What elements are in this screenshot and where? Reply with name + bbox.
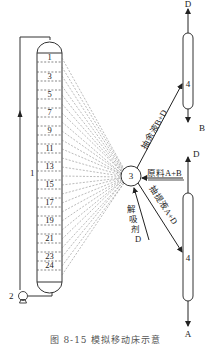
raffinate-label: 抽余液B+D	[139, 108, 169, 151]
svg-text:17: 17	[45, 197, 54, 207]
svg-text:7: 7	[47, 107, 51, 117]
svg-text:19: 19	[45, 215, 54, 225]
column-label: 1	[30, 168, 35, 178]
lower-top-product: D	[193, 149, 200, 159]
svg-text:解: 解	[127, 204, 136, 214]
pump-icon	[19, 292, 28, 304]
valve-connections	[62, 58, 124, 275]
upper-bottom-product: B	[199, 123, 205, 133]
svg-text:11: 11	[45, 143, 53, 153]
svg-text:剂: 剂	[131, 224, 140, 234]
smb-diagram: 2 1 1 3 5 7 9	[0, 0, 211, 345]
upper-top-product: D	[185, 0, 192, 9]
separator-lower-label: 4	[186, 253, 191, 263]
figure-caption: 图 8-15 模拟移动床示意	[0, 333, 211, 345]
svg-text:5: 5	[47, 89, 51, 99]
feed-label: 原料A+B	[147, 168, 182, 178]
svg-text:3: 3	[47, 71, 51, 81]
svg-text:吸: 吸	[129, 214, 138, 224]
svg-text:9: 9	[47, 125, 51, 135]
svg-text:15: 15	[45, 179, 54, 189]
separator-upper	[183, 33, 193, 109]
svg-text:13: 13	[45, 161, 54, 171]
svg-text:24: 24	[45, 260, 54, 270]
separator-lower	[183, 193, 193, 301]
desorbent-label: 解 吸 剂 D	[127, 204, 142, 244]
svg-text:21: 21	[45, 233, 54, 243]
separator-upper-label: 4	[186, 79, 191, 89]
svg-text:1: 1	[47, 52, 51, 62]
svg-text:D: D	[135, 234, 141, 244]
svg-text:3: 3	[129, 171, 134, 181]
pump-label: 2	[9, 291, 14, 301]
